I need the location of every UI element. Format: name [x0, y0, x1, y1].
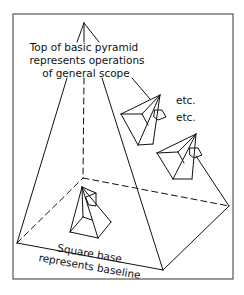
small-pyramid-upper — [121, 95, 166, 145]
apex-label-line-1: Top of basic pyramid — [29, 41, 139, 53]
apex-label-line-2: represents operations — [29, 54, 144, 66]
etc-label-2: etc. — [176, 111, 196, 123]
small-pyramid-lower — [157, 134, 202, 179]
small-pyramid-base — [70, 187, 111, 238]
etc-label-1: etc. — [176, 94, 196, 106]
apex-label-line-3: of general scope — [42, 67, 130, 79]
pyramid-diagram: Top of basic pyramid represents operatio… — [0, 0, 244, 295]
